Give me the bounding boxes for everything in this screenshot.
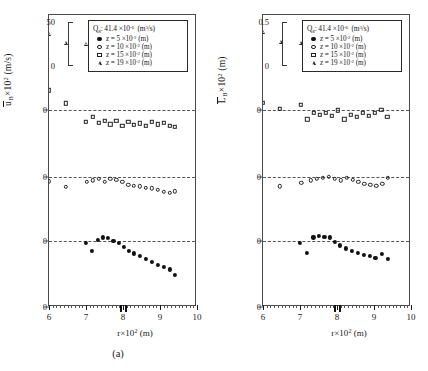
open-circle-marker-icon (315, 177, 319, 181)
open-circle-marker-icon (374, 183, 378, 187)
data-point (385, 115, 389, 119)
open-square-marker-icon (367, 113, 371, 117)
filled-circle-marker-icon (322, 235, 326, 239)
open-circle-marker-icon (114, 178, 118, 182)
data-point (373, 110, 377, 114)
x-tick-label: 10 (193, 312, 202, 322)
x-tick-major (49, 305, 50, 310)
filled-circle-marker-icon (344, 246, 348, 250)
scale-bar-cap-bottom-b (282, 65, 287, 66)
filled-circle-marker-icon (138, 254, 142, 258)
data-point (84, 120, 88, 124)
open-triangle-marker-icon (312, 61, 316, 65)
legend-entry-label: z = 15 ×10-2 (m) (320, 51, 366, 59)
data-point (342, 117, 346, 121)
filled-circle-marker-icon (111, 239, 115, 243)
legend-entry-0[interactable]: z = 5 ×10-2 (m) (93, 35, 183, 43)
panel-a-x-tick-labels: 678910 (49, 312, 195, 326)
x-tick-minor (190, 305, 191, 308)
data-point (162, 265, 166, 269)
x-tick-minor (319, 305, 320, 308)
data-point (167, 123, 171, 127)
scale-bar-max-b: 0.5 (258, 17, 269, 27)
data-point (138, 121, 142, 125)
x-tick-label: 7 (298, 312, 303, 322)
legend-entry-2[interactable]: z = 15 ×10-2 (m) (307, 51, 397, 59)
legend-entry-label: z = 10 ×10-2 (m) (106, 43, 152, 51)
x-tick-major (263, 305, 264, 310)
legend-symbol (93, 45, 106, 49)
x-tick-major (160, 305, 161, 310)
filled-circle-marker-icon (173, 273, 177, 277)
filled-circle-marker-icon (367, 254, 371, 258)
data-point (350, 178, 354, 182)
legend-entry-0[interactable]: z = 5 ×10-2 (m) (307, 35, 397, 43)
filled-circle-marker-icon (168, 267, 172, 271)
panel-a-legend: Qg: 41.4 ×10-6 (m3/s)z = 5 ×10-2 (m)z = … (88, 20, 188, 72)
data-point (344, 246, 348, 250)
open-square-marker-icon (311, 53, 315, 57)
legend-entry-3[interactable]: z = 19 ×10-2 (m) (307, 59, 397, 67)
x-tick-minor (330, 305, 331, 308)
panel-b-x-axis-title: r×102 (m) (262, 328, 410, 338)
filled-circle-marker-icon (338, 243, 342, 247)
legend-entry-1[interactable]: z = 10 ×10-2 (m) (93, 43, 183, 51)
x-tick-minor (304, 305, 305, 308)
data-point (132, 251, 136, 255)
x-tick-minor (156, 305, 157, 308)
data-point (324, 110, 328, 114)
filled-circle-marker-icon (311, 235, 315, 239)
data-point (161, 121, 165, 125)
legend-symbol (307, 61, 320, 65)
open-square-marker-icon (49, 88, 51, 92)
data-point (386, 257, 390, 261)
zero-axis-tick (44, 109, 49, 110)
filled-circle-marker-icon (362, 253, 366, 257)
x-tick-minor (108, 305, 109, 308)
legend-entry-3[interactable]: z = 19 ×10-2 (m) (93, 59, 183, 67)
legend-entry-label: z = 5 ×10-2 (m) (320, 35, 362, 43)
open-circle-marker-icon (333, 177, 337, 181)
x-tick-minor (153, 305, 154, 308)
x-tick-label: 6 (261, 312, 266, 322)
data-point (138, 184, 142, 188)
data-point (318, 113, 322, 117)
x-tick-minor (130, 305, 131, 308)
open-square-marker-icon (90, 115, 94, 119)
x-tick-minor (282, 305, 283, 308)
open-circle-marker-icon (150, 186, 154, 190)
legend-symbol (93, 61, 106, 65)
x-tick-minor (293, 305, 294, 308)
x-tick-minor (175, 305, 176, 308)
data-point (321, 175, 325, 179)
open-circle-marker-icon (49, 179, 51, 183)
data-point (122, 245, 126, 249)
panel-b-scale-bar: 0.5 0 (272, 22, 298, 66)
data-point (49, 32, 51, 36)
filled-circle-marker-icon (156, 263, 160, 267)
open-circle-marker-icon (167, 191, 171, 195)
x-tick-major (411, 305, 412, 310)
data-point (368, 183, 372, 187)
x-tick-minor (53, 305, 54, 308)
legend-entry-1[interactable]: z = 10 ×10-2 (m) (307, 43, 397, 51)
x-tick-minor (171, 305, 172, 308)
x-tick-major (86, 305, 87, 310)
filled-circle-marker-icon (380, 252, 384, 256)
open-circle-marker-icon (338, 178, 342, 182)
data-point (362, 182, 366, 186)
x-tick-minor (404, 305, 405, 308)
legend-entry-2[interactable]: z = 15 ×10-2 (m) (93, 51, 183, 59)
data-point (367, 254, 371, 258)
filled-circle-marker-icon (373, 256, 377, 260)
open-circle-marker-icon (120, 180, 124, 184)
zero-axis-tick (258, 177, 263, 178)
x-tick-minor (270, 305, 271, 308)
open-circle-marker-icon (311, 45, 315, 49)
data-point (173, 273, 177, 277)
filled-circle-marker-icon (328, 235, 332, 239)
ylabel-mult-a: ×10 (3, 81, 13, 96)
data-point (156, 263, 160, 267)
x-tick-minor (79, 305, 80, 308)
scale-bar-cap-top-b (282, 22, 287, 23)
